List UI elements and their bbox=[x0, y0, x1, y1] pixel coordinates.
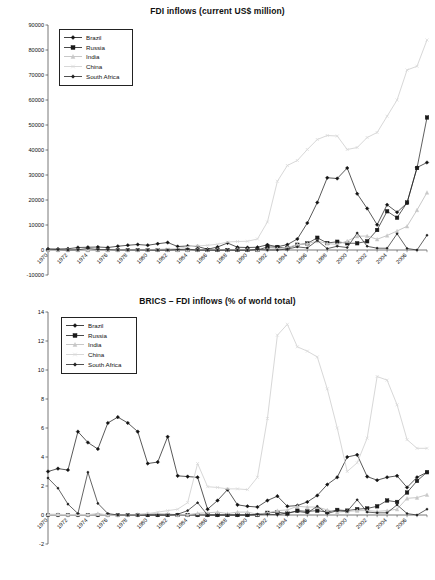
x-tick-label: 1994 bbox=[275, 517, 288, 530]
legend-marker-cross-icon bbox=[63, 62, 83, 71]
legend-label: South Africa bbox=[88, 360, 121, 369]
legend-label: South Africa bbox=[86, 72, 119, 81]
y-tick-label: 14 bbox=[38, 309, 44, 315]
legend-marker-triangle-icon bbox=[65, 340, 85, 349]
x-tick-label: 1970 bbox=[36, 252, 49, 265]
legend-entry-india[interactable]: India bbox=[63, 52, 128, 62]
x-tick-label: 1974 bbox=[76, 517, 89, 530]
y-tick-label: 60000 bbox=[28, 97, 44, 103]
x-tick-label: 1984 bbox=[175, 517, 188, 530]
legend-label: India bbox=[86, 52, 99, 61]
x-tick-label: 1972 bbox=[56, 517, 69, 530]
x-tick-label: 1976 bbox=[96, 517, 109, 530]
y-tick-label: 40000 bbox=[28, 147, 44, 153]
y-tick-label: 10 bbox=[38, 367, 44, 373]
x-tick-label: 1996 bbox=[295, 252, 308, 265]
legend-marker-cross-icon bbox=[65, 350, 85, 359]
series-brazil bbox=[46, 415, 429, 511]
chart-panel-fdi-absolute: FDI inflows (current US$ million) -10000… bbox=[0, 0, 435, 290]
figure-container: FDI inflows (current US$ million) -10000… bbox=[0, 0, 435, 580]
y-tick-label: 80000 bbox=[28, 47, 44, 53]
x-tick-label: 1984 bbox=[175, 252, 188, 265]
x-tick-label: 1994 bbox=[275, 252, 288, 265]
legend-entry-russia[interactable]: Russia bbox=[63, 43, 128, 53]
x-tick-label: 2004 bbox=[375, 252, 388, 265]
x-tick-label: 1986 bbox=[195, 252, 208, 265]
y-tick-label: 10000 bbox=[28, 222, 44, 228]
x-tick-label: 1988 bbox=[215, 517, 228, 530]
x-tick-label: 1972 bbox=[56, 252, 69, 265]
x-tick-label: 1990 bbox=[235, 252, 248, 265]
legend-marker-triangle-icon bbox=[63, 52, 83, 61]
series-russia bbox=[46, 470, 429, 516]
x-tick-label: 1996 bbox=[295, 517, 308, 530]
x-tick-label: 2002 bbox=[355, 252, 368, 265]
x-tick-label: 2000 bbox=[335, 252, 348, 265]
legend-entry-russia[interactable]: Russia bbox=[65, 331, 132, 341]
x-tick-label: 1998 bbox=[315, 517, 328, 530]
x-tick-label: 1986 bbox=[195, 517, 208, 530]
legend-label: Russia bbox=[88, 331, 107, 340]
x-tick-label: 2004 bbox=[375, 517, 388, 530]
x-tick-label: 1974 bbox=[76, 252, 89, 265]
legend-label: China bbox=[86, 62, 102, 71]
legend-entry-south-africa[interactable]: South Africa bbox=[65, 359, 132, 369]
y-tick-label: 90000 bbox=[28, 22, 44, 28]
x-tick-label: 2002 bbox=[355, 517, 368, 530]
x-tick-label: 1982 bbox=[155, 252, 168, 265]
x-tick-label: 1998 bbox=[315, 252, 328, 265]
series-russia bbox=[46, 116, 429, 252]
legend-marker-diamond-icon bbox=[65, 321, 85, 330]
x-tick-label: 1982 bbox=[155, 517, 168, 530]
x-tick-label: 1992 bbox=[255, 517, 268, 530]
legend-entry-china[interactable]: China bbox=[65, 350, 132, 360]
y-tick-label: 70000 bbox=[28, 72, 44, 78]
legend-marker-star-icon bbox=[63, 72, 83, 81]
x-tick-label: 1980 bbox=[135, 252, 148, 265]
x-tick-label: 1980 bbox=[135, 517, 148, 530]
y-tick-label: 50000 bbox=[28, 122, 44, 128]
legend-entry-india[interactable]: India bbox=[65, 340, 132, 350]
series-india bbox=[46, 191, 429, 252]
legend-label: Russia bbox=[86, 43, 105, 52]
y-tick-label: 4 bbox=[41, 454, 44, 460]
x-tick-label: 1976 bbox=[96, 252, 109, 265]
legend-entry-south-africa[interactable]: South Africa bbox=[63, 71, 128, 81]
legend-bottom: BrazilRussiaIndiaChinaSouth Africa bbox=[61, 317, 137, 374]
x-tick-label: 2006 bbox=[395, 252, 408, 265]
chart-panel-fdi-percent: BRICS – FDI inflows (% of world total) -… bbox=[0, 290, 435, 580]
y-tick-label: 30000 bbox=[28, 172, 44, 178]
x-tick-label: 1992 bbox=[255, 252, 268, 265]
y-tick-label: 12 bbox=[38, 338, 44, 344]
legend-label: Brazil bbox=[88, 321, 103, 330]
legend-label: China bbox=[88, 350, 104, 359]
x-tick-label: 2006 bbox=[395, 517, 408, 530]
legend-label: India bbox=[88, 340, 101, 349]
x-tick-label: 1988 bbox=[215, 252, 228, 265]
legend-entry-brazil[interactable]: Brazil bbox=[65, 321, 132, 331]
y-tick-label: 8 bbox=[41, 396, 44, 402]
legend-marker-square-icon bbox=[63, 43, 83, 52]
y-tick-label: 2 bbox=[41, 483, 44, 489]
legend-top: BrazilRussiaIndiaChinaSouth Africa bbox=[59, 29, 133, 86]
x-tick-label: 1970 bbox=[36, 517, 49, 530]
legend-entry-china[interactable]: China bbox=[63, 62, 128, 72]
y-tick-label: -10000 bbox=[27, 272, 44, 278]
x-tick-label: 2000 bbox=[335, 517, 348, 530]
x-tick-label: 1990 bbox=[235, 517, 248, 530]
x-tick-label: 1978 bbox=[115, 252, 128, 265]
legend-marker-diamond-icon bbox=[63, 33, 83, 42]
y-tick-label: -2 bbox=[39, 541, 44, 547]
x-tick-label: 1978 bbox=[115, 517, 128, 530]
legend-label: Brazil bbox=[86, 33, 101, 42]
legend-marker-square-icon bbox=[65, 331, 85, 340]
y-tick-label: 6 bbox=[41, 425, 44, 431]
y-tick-label: 20000 bbox=[28, 197, 44, 203]
legend-marker-star-icon bbox=[65, 360, 85, 369]
legend-entry-brazil[interactable]: Brazil bbox=[63, 33, 128, 43]
